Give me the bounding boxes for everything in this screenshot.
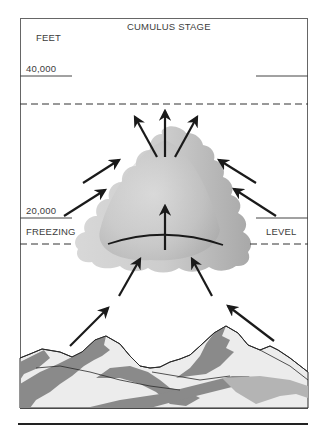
altitude-40000-label: 40,000 <box>26 63 56 74</box>
diagram-title: CUMULUS STAGE <box>127 21 211 32</box>
mountain-range <box>20 326 308 408</box>
freezing-label: FREEZING <box>26 226 76 237</box>
axis-unit-label: FEET <box>36 32 61 43</box>
level-label: LEVEL <box>266 226 297 237</box>
arrow-icon <box>83 160 119 183</box>
altitude-20000-label: 20,000 <box>26 205 56 216</box>
arrow-icon <box>234 189 276 216</box>
cumulus-cloud <box>75 126 251 272</box>
